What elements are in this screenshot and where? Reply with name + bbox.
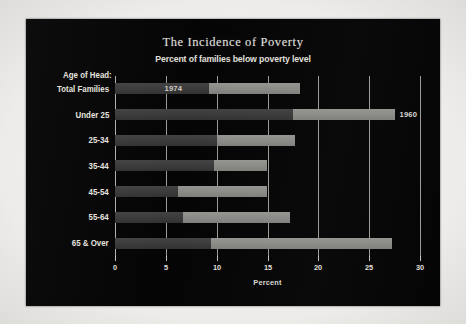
category-label: Total Families	[57, 84, 109, 94]
bar-segment-1960	[211, 238, 392, 249]
x-tick-20	[318, 256, 319, 261]
bar	[115, 83, 300, 94]
chart-panel: The Incidence of Poverty Percent of fami…	[26, 19, 440, 306]
chart-row: Total Families	[115, 76, 420, 102]
bar	[115, 109, 395, 120]
bar-segment-1974	[115, 186, 178, 197]
category-label: 55-64	[89, 212, 109, 222]
category-label: 25-34	[89, 135, 109, 145]
bar	[115, 160, 268, 171]
chart-row: 55-64	[115, 205, 420, 231]
x-tick-label-0: 0	[113, 263, 117, 272]
x-tick-15	[268, 256, 269, 261]
bar-segment-1974	[115, 160, 214, 171]
bar-segment-1960	[217, 135, 295, 146]
chart-subtitle: Percent of families below poverty level	[43, 53, 424, 64]
x-tick-10	[217, 256, 218, 261]
bar	[115, 135, 295, 146]
category-label: 35-44	[89, 161, 109, 171]
bar-segment-1974	[115, 83, 209, 94]
chart-row: 35-44	[115, 153, 420, 179]
x-axis: Percent 051015202530	[115, 256, 420, 286]
bar-segment-1960	[178, 186, 267, 197]
x-tick-label-15: 15	[263, 263, 271, 272]
bar-segment-1960	[209, 83, 301, 94]
chart-row: 65 & Over	[115, 230, 420, 256]
x-tick-label-10: 10	[213, 263, 221, 272]
chart-row: 25-34	[115, 127, 420, 153]
plot-area: Total FamiliesUnder 2525-3435-4445-5455-…	[115, 76, 420, 256]
x-tick-label-20: 20	[314, 263, 322, 272]
bar-segment-1960	[214, 160, 268, 171]
bar	[115, 212, 290, 223]
x-tick-label-30: 30	[416, 263, 424, 272]
x-axis-title: Percent	[127, 278, 408, 287]
bar	[115, 186, 268, 197]
x-tick-0	[115, 256, 116, 261]
chart-row: 45-54	[115, 179, 420, 205]
gridline-30	[420, 76, 421, 256]
category-label: 65 & Over	[72, 238, 109, 248]
bar-segment-1974	[115, 109, 293, 120]
bar-segment-1974	[115, 135, 217, 146]
bar-segment-1974	[115, 238, 211, 249]
bar-annotation-1974: 1974	[164, 84, 182, 93]
bar-segment-1960	[293, 109, 395, 120]
page-canvas: The Incidence of Poverty Percent of fami…	[0, 0, 466, 324]
x-tick-label-25: 25	[365, 263, 373, 272]
y-axis-group-label: Age of Head:	[63, 70, 112, 80]
chart-row: Under 25	[115, 102, 420, 128]
category-label: 45-54	[89, 187, 109, 197]
x-tick-label-5: 5	[164, 263, 168, 272]
x-tick-30	[420, 256, 421, 261]
x-tick-25	[369, 256, 370, 261]
bar-segment-1974	[115, 212, 183, 223]
category-label: Under 25	[75, 110, 109, 120]
bar-segment-1960	[183, 212, 290, 223]
bar	[115, 238, 392, 249]
x-tick-5	[166, 256, 167, 261]
chart-title: The Incidence of Poverty	[26, 35, 440, 50]
bar-annotation-1960: 1960	[399, 110, 417, 119]
